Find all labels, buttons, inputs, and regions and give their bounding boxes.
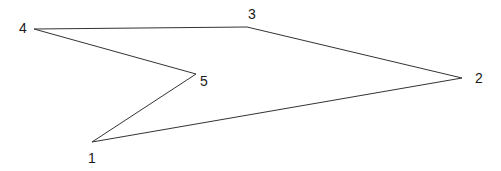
vertex-label-1: 1 xyxy=(88,150,96,166)
vertex-label-4: 4 xyxy=(19,20,27,36)
vertex-label-5: 5 xyxy=(200,73,208,89)
polygon-shape xyxy=(34,27,462,142)
vertex-label-2: 2 xyxy=(475,70,483,86)
vertex-label-3: 3 xyxy=(248,6,256,22)
polygon-diagram: 1 2 3 4 5 xyxy=(0,0,501,171)
